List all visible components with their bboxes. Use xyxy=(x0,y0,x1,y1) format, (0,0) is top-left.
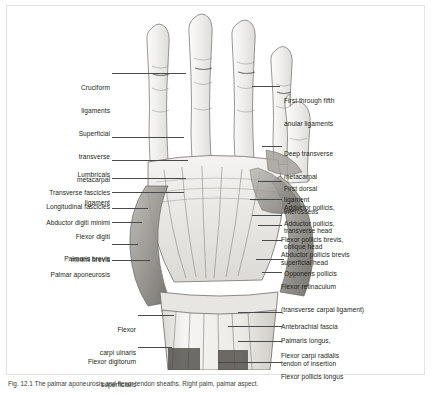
label-line: Deep transverse xyxy=(284,150,434,158)
label-line: Superficial xyxy=(40,130,110,138)
label-line: Flexor digitorum xyxy=(56,358,136,366)
leader-longitudinal-fascicles xyxy=(112,192,184,193)
label-line: Cruciform xyxy=(44,84,110,92)
leader-palmar-aponeurosis xyxy=(112,260,150,261)
leader-adductor-pollicis-oblique-head xyxy=(252,215,282,216)
leader-first-through-fifth-anular-ligaments xyxy=(252,86,280,87)
leader-flexor-digiti-minimi-brevis xyxy=(112,222,142,223)
label-line: Flexor xyxy=(74,326,136,334)
leader-palmaris-brevis xyxy=(112,244,138,245)
anatomical-figure: Cruciform ligaments Superficial transver… xyxy=(0,0,443,394)
label-line: anular ligaments xyxy=(284,120,434,128)
leader-abductor-pollicis-brevis xyxy=(262,240,282,241)
leader-palmaris-longus-tendon-of-insertion xyxy=(228,326,282,327)
leader-flexor-carpi-ulnaris xyxy=(138,315,174,316)
leader-transverse-fascicles xyxy=(112,178,186,179)
leader-flexor-digitorum-superficialis xyxy=(138,347,172,348)
label-palmar-aponeurosis: Palmar aponeurosis xyxy=(22,256,110,294)
leader-deep-transverse-metacarpal-ligament xyxy=(262,146,282,147)
label-first-through-fifth-anular-ligaments: First through fifth anular ligaments xyxy=(284,82,434,143)
leader-flexor-retinaculum xyxy=(262,272,282,273)
leader-opponens-pollicis xyxy=(256,259,284,260)
label-line: First through fifth xyxy=(284,97,434,105)
figure-caption: Fig. 12.1 The palmar aponeurosis and fle… xyxy=(8,380,436,393)
leader-adductor-pollicis-transverse-head xyxy=(250,199,282,200)
leader-superficial-transverse-metacarpal-ligament xyxy=(112,137,184,138)
label-line: Flexor retinaculum xyxy=(281,283,441,291)
leader-flexor-carpi-radialis xyxy=(238,341,282,342)
leader-antebrachial-fascia xyxy=(238,312,282,313)
leader-flexor-pollicis-longus xyxy=(218,362,282,363)
label-line: Palmar aponeurosis xyxy=(22,271,110,279)
leader-first-dorsal-interosseus xyxy=(258,181,282,182)
label-line: ligaments xyxy=(44,107,110,115)
leader-flexor-pollicis-brevis-superficial-head xyxy=(258,225,282,226)
figure-caption-text: Fig. 12.1 The palmar aponeurosis and fle… xyxy=(8,380,258,387)
leader-cruciform-ligaments xyxy=(112,73,186,74)
anular-ligament-bands xyxy=(153,68,291,94)
leader-abductor-digiti-minimi xyxy=(112,208,148,209)
leader-lumbricals xyxy=(112,160,188,161)
